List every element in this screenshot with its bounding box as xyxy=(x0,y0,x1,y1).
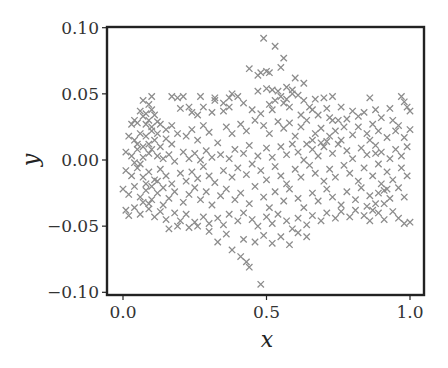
x-axis-ticks: 0.00.51.0 xyxy=(109,295,423,322)
y-tick-label: −0.05 xyxy=(47,216,99,236)
y-tick-label: 0.00 xyxy=(61,150,99,170)
x-tick-label: 0.0 xyxy=(109,302,136,322)
plot-area xyxy=(107,27,424,295)
x-axis-label: x xyxy=(261,327,274,352)
y-axis-ticks: 0.100.050.00−0.05−0.10 xyxy=(47,18,107,303)
y-axis-label: y xyxy=(18,153,43,167)
y-tick-label: 0.10 xyxy=(61,18,99,38)
x-tick-label: 0.5 xyxy=(253,302,280,322)
x-tick-label: 1.0 xyxy=(396,302,423,322)
plot-background xyxy=(107,27,424,295)
y-tick-label: 0.05 xyxy=(61,84,99,104)
scatter-chart: 0.00.51.0 0.100.050.00−0.05−0.10 x y xyxy=(0,0,448,368)
y-tick-label: −0.10 xyxy=(47,282,99,302)
